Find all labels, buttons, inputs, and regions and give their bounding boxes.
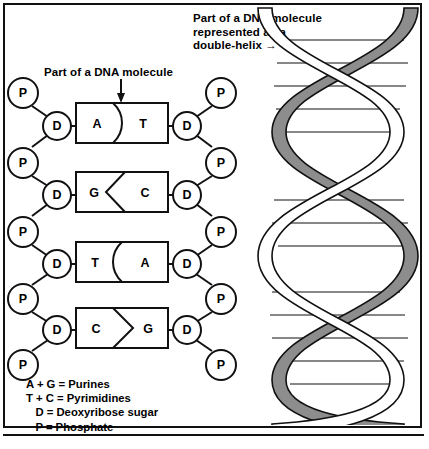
svg-text:P: P <box>217 225 225 239</box>
svg-text:P: P <box>19 358 27 372</box>
svg-text:P: P <box>217 156 225 170</box>
phosphate-node: P <box>206 217 236 247</box>
legend-row: P = Phosphate <box>26 420 158 434</box>
phosphate-node: P <box>206 284 236 314</box>
legend-row: T + C = Pyrimidines <box>26 391 158 405</box>
svg-text:D: D <box>182 323 191 337</box>
legend: A + G = Purines T + C = Pyrimidines D = … <box>26 377 158 434</box>
base-pair-row: C G <box>76 308 168 348</box>
sugar-node: D <box>43 112 71 140</box>
legend-row: D = Deoxyribose sugar <box>26 405 158 419</box>
svg-text:D: D <box>182 188 191 202</box>
sugar-node: D <box>43 181 71 209</box>
svg-text:D: D <box>52 323 61 337</box>
double-helix <box>258 8 418 436</box>
sugar-node: D <box>173 112 201 140</box>
svg-text:P: P <box>217 86 225 100</box>
base-left: C <box>91 322 100 336</box>
svg-text:P: P <box>19 225 27 239</box>
base-pair-row: G C <box>76 172 168 212</box>
svg-text:D: D <box>182 257 191 271</box>
svg-text:P: P <box>217 292 225 306</box>
base-pair-row: T A <box>76 242 168 282</box>
svg-text:P: P <box>217 358 225 372</box>
ladder-pointer-arrow <box>117 79 125 103</box>
base-right: C <box>140 186 149 200</box>
sugar-node: D <box>173 181 201 209</box>
svg-text:P: P <box>19 86 27 100</box>
svg-text:D: D <box>182 119 191 133</box>
sugar-node: D <box>43 250 71 278</box>
phosphate-node: P <box>206 78 236 108</box>
sugar-node: D <box>173 316 201 344</box>
legend-row: A + G = Purines <box>26 377 158 391</box>
backbone-left-nodes: P D P D P D P D P <box>8 78 71 380</box>
base-right: A <box>140 256 149 270</box>
sugar-node: D <box>173 250 201 278</box>
phosphate-node: P <box>8 78 38 108</box>
svg-text:D: D <box>52 188 61 202</box>
phosphate-node: P <box>206 350 236 380</box>
phosphate-node: P <box>8 148 38 178</box>
svg-text:P: P <box>19 292 27 306</box>
base-left: A <box>92 117 101 131</box>
backbone-right-nodes: P D P D P D P D P <box>173 78 236 380</box>
svg-text:P: P <box>19 156 27 170</box>
base-left: G <box>89 186 99 200</box>
base-left: T <box>91 256 99 270</box>
phosphate-node: P <box>8 284 38 314</box>
base-pair-row: A T <box>76 103 168 143</box>
base-right: T <box>139 117 147 131</box>
base-right: G <box>143 322 153 336</box>
phosphate-node: P <box>206 148 236 178</box>
sugar-node: D <box>43 316 71 344</box>
phosphate-node: P <box>8 350 38 380</box>
dna-diagram-figure: Part of a DNA molecule represented as a … <box>0 0 429 449</box>
phosphate-node: P <box>8 217 38 247</box>
svg-text:D: D <box>52 257 61 271</box>
svg-text:D: D <box>52 119 61 133</box>
